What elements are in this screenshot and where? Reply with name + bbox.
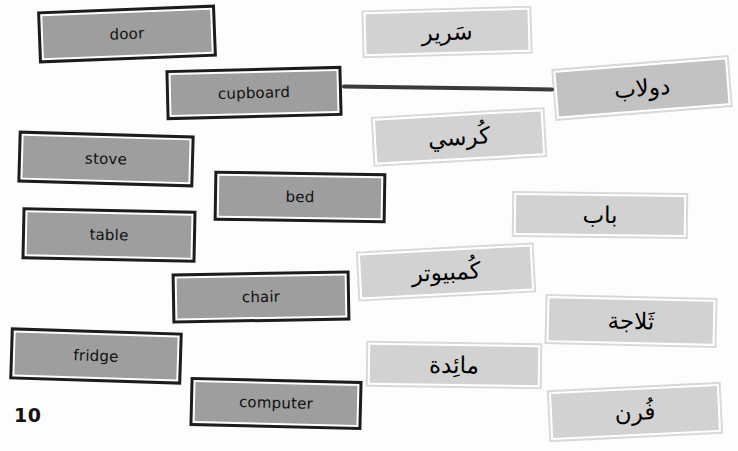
arabic-word-card-kursi[interactable]: كُرسي xyxy=(371,107,548,167)
card-label: ثَلاجة xyxy=(607,309,654,333)
arabic-word-card-maaida[interactable]: مائِدة xyxy=(366,341,543,389)
arabic-word-card-furn[interactable]: فُرن xyxy=(547,382,723,442)
card-label: مائِدة xyxy=(429,353,479,377)
english-word-card-door[interactable]: door xyxy=(37,5,217,64)
page-number: 10 xyxy=(14,404,41,426)
card-label: cupboard xyxy=(218,85,291,102)
worksheet-page: doorcupboardstovebedtablechairfridgecomp… xyxy=(0,0,738,451)
card-label: دولاب xyxy=(613,74,671,101)
card-label: فُرن xyxy=(614,400,656,425)
card-label: bed xyxy=(285,189,314,204)
card-label: computer xyxy=(239,395,313,412)
arabic-word-card-kombuter[interactable]: كُمبيوتر xyxy=(356,242,536,301)
card-label: chair xyxy=(242,289,281,305)
english-word-card-fridge[interactable]: fridge xyxy=(9,327,183,384)
arabic-word-card-doolab[interactable]: دولاب xyxy=(551,55,733,121)
card-label: كُرسي xyxy=(427,124,490,150)
arabic-word-card-bab[interactable]: باب xyxy=(512,191,688,239)
arabic-word-card-sareer[interactable]: سَرير xyxy=(361,6,532,59)
english-word-card-chair[interactable]: chair xyxy=(172,270,351,323)
card-label: باب xyxy=(582,203,617,226)
arabic-word-card-thallaja[interactable]: ثَلاجة xyxy=(544,294,717,348)
english-word-card-table[interactable]: table xyxy=(21,207,196,263)
english-word-card-computer[interactable]: computer xyxy=(189,377,362,430)
english-word-card-stove[interactable]: stove xyxy=(17,131,194,188)
english-word-card-bed[interactable]: bed xyxy=(214,171,387,224)
card-label: table xyxy=(89,227,128,243)
card-label: كُمبيوتر xyxy=(411,259,481,286)
matching-connector-line-cupboard-doolab[interactable] xyxy=(342,85,554,92)
card-label: stove xyxy=(85,151,127,167)
card-label: سَرير xyxy=(421,20,473,44)
card-label: door xyxy=(109,26,144,42)
card-label: fridge xyxy=(73,348,119,364)
english-word-card-cupboard[interactable]: cupboard xyxy=(165,66,342,120)
